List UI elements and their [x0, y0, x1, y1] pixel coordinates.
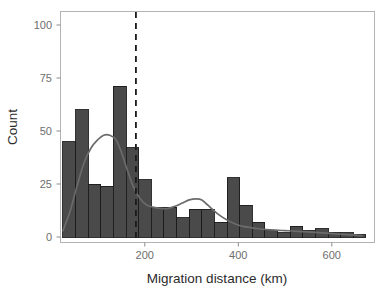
y-tick-label-25: 25 [40, 178, 52, 190]
histogram-bar [265, 231, 278, 237]
histogram-bar [189, 209, 202, 237]
histogram-bar [240, 205, 253, 237]
y-axis-title: Count [5, 109, 20, 145]
x-tick-label-600: 600 [323, 249, 341, 261]
y-tick-label-50: 50 [40, 125, 52, 137]
histogram-bar [164, 207, 177, 237]
histogram-bar [139, 180, 152, 237]
chart-canvas: 0255075100 200400600 Migration distance … [0, 0, 391, 300]
histogram-bar [214, 222, 227, 237]
histogram-bar [76, 110, 89, 237]
x-axis-title: Migration distance (km) [147, 271, 287, 286]
y-tick-label-75: 75 [40, 72, 52, 84]
histogram-bar [177, 218, 190, 237]
histogram-bar [151, 207, 164, 237]
y-tick-label-0: 0 [46, 231, 52, 243]
histogram-bar [101, 186, 114, 237]
y-tick-label-100: 100 [34, 19, 52, 31]
x-tick-label-200: 200 [136, 249, 154, 261]
histogram-bar [227, 178, 240, 237]
x-tick-label-400: 400 [229, 249, 247, 261]
histogram-chart: 0255075100 200400600 Migration distance … [0, 0, 391, 300]
histogram-bar [88, 184, 101, 237]
histogram-bar [63, 142, 76, 237]
histogram-bar [278, 233, 291, 237]
histogram-bar [202, 209, 215, 237]
